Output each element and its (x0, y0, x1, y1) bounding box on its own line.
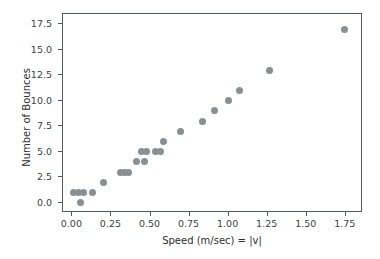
y-axis-label: Number of Bounces (21, 38, 32, 198)
x-tick (189, 212, 190, 216)
data-point (77, 199, 84, 206)
x-tick-label: 1.25 (256, 218, 277, 229)
y-tick (58, 151, 62, 152)
data-point (177, 128, 184, 135)
data-point (199, 118, 206, 125)
data-point (341, 26, 348, 33)
y-tick (58, 202, 62, 203)
y-tick-label: 0.0 (0, 196, 52, 207)
data-point (89, 189, 96, 196)
data-point (133, 158, 140, 165)
y-tick (58, 74, 62, 75)
data-point (141, 158, 148, 165)
scatter-plot-figure: 0.000.250.500.751.001.251.501.75 0.02.55… (0, 0, 380, 259)
x-tick-label: 1.50 (295, 218, 316, 229)
x-tick (306, 212, 307, 216)
y-tick (58, 23, 62, 24)
plot-area (62, 13, 362, 212)
data-point (160, 138, 167, 145)
x-tick (71, 212, 72, 216)
x-tick-label: 0.25 (100, 218, 121, 229)
data-point (211, 107, 218, 114)
x-tick (345, 212, 346, 216)
data-point (225, 97, 232, 104)
x-tick (267, 212, 268, 216)
data-point (100, 179, 107, 186)
data-point (80, 189, 87, 196)
x-tick (150, 212, 151, 216)
x-tick (228, 212, 229, 216)
data-point (157, 148, 164, 155)
y-tick (58, 176, 62, 177)
x-tick-label: 1.00 (217, 218, 238, 229)
y-tick (58, 125, 62, 126)
x-tick (110, 212, 111, 216)
data-point (266, 67, 273, 74)
y-tick (58, 100, 62, 101)
x-axis-label: Speed (m/sec) = |v| (62, 235, 362, 246)
x-tick-label: 1.75 (334, 218, 355, 229)
data-point (143, 148, 150, 155)
x-tick-label: 0.75 (178, 218, 199, 229)
data-point (236, 87, 243, 94)
data-points-layer (63, 14, 361, 211)
y-tick-label: 17.5 (0, 18, 52, 29)
data-point (125, 169, 132, 176)
x-tick-label: 0.50 (139, 218, 160, 229)
y-tick (58, 49, 62, 50)
x-tick-label: 0.00 (61, 218, 82, 229)
